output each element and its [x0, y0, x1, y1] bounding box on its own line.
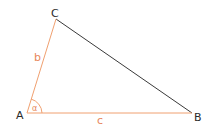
side-b — [27, 19, 56, 113]
vertex-label-b: B — [194, 111, 202, 124]
vertex-label-c: C — [51, 7, 59, 20]
angle-label-alpha: α — [32, 104, 37, 113]
triangle-diagram: C A B b c α — [0, 0, 211, 132]
side-label-c: c — [97, 114, 103, 127]
vertex-label-a: A — [16, 109, 24, 122]
side-label-b: b — [34, 51, 41, 64]
side-a — [56, 19, 192, 113]
